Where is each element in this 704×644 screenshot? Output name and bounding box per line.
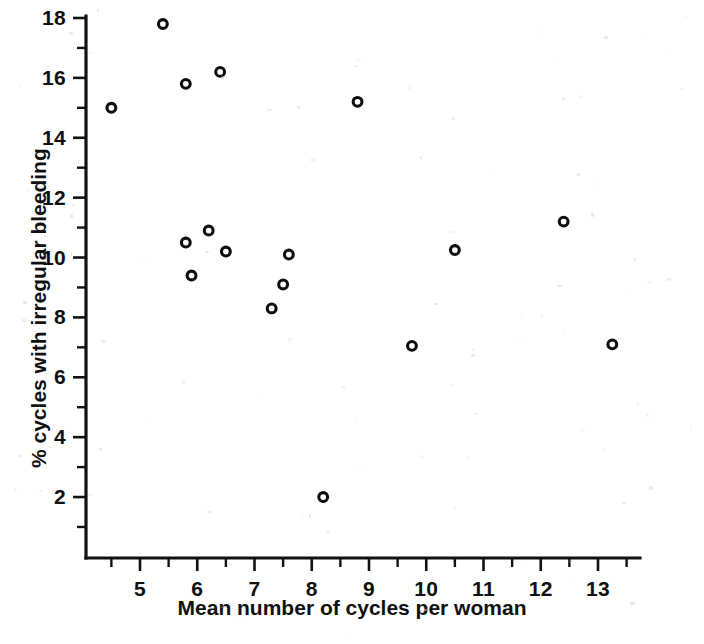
- axes-group: [86, 16, 640, 558]
- data-point: [181, 79, 190, 88]
- data-point: [284, 250, 293, 259]
- data-point: [319, 493, 328, 502]
- data-point: [204, 226, 213, 235]
- data-point: [181, 238, 190, 247]
- x-tick-label: 13: [573, 578, 623, 599]
- x-tick-label: 5: [115, 578, 165, 599]
- tick-marks-group: [73, 18, 627, 571]
- y-tick-label: 18: [11, 7, 66, 28]
- plot-canvas: [0, 0, 704, 644]
- data-point: [450, 246, 459, 255]
- x-axis-title: Mean number of cycles per woman: [0, 597, 704, 618]
- data-point: [279, 280, 288, 289]
- data-markers-group: [107, 20, 617, 502]
- data-point: [159, 20, 168, 29]
- data-point: [107, 103, 116, 112]
- y-tick-label: 14: [11, 127, 66, 148]
- data-point: [221, 247, 230, 256]
- data-point: [608, 340, 617, 349]
- data-point: [216, 67, 225, 76]
- data-point: [559, 217, 568, 226]
- data-point: [353, 97, 362, 106]
- y-tick-label: 2: [11, 486, 66, 507]
- y-axis-title: % cycles with irregular bleeding: [28, 148, 49, 468]
- data-point: [267, 304, 276, 313]
- scatter-plot-figure: 24681012141618 5678910111213 Mean number…: [0, 0, 704, 644]
- data-point: [408, 341, 417, 350]
- y-tick-label: 16: [11, 67, 66, 88]
- data-point: [187, 271, 196, 280]
